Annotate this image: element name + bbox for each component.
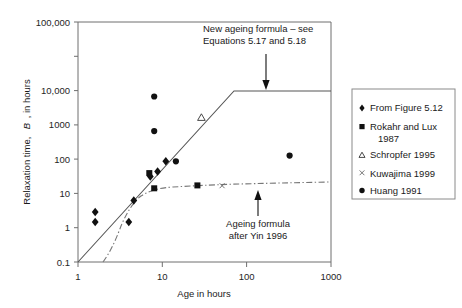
data-point-diamond bbox=[154, 167, 161, 176]
data-point-square bbox=[194, 182, 200, 188]
legend-label-line2: 1987 bbox=[378, 133, 399, 144]
legend-marker-circle bbox=[359, 188, 364, 193]
y-axis-title: Relaxation time, B , in hours bbox=[16, 79, 33, 205]
data-point-circle bbox=[151, 93, 157, 99]
chart-legend: From Figure 5.12 Rokahr and Lux 1987 Sch… bbox=[352, 89, 455, 199]
data-point-triangle bbox=[198, 114, 206, 121]
new-ageing-formula-annotation: New ageing formula – see Equations 5.17 … bbox=[203, 23, 313, 90]
data-point-diamond bbox=[162, 157, 169, 166]
y-tick-label-1000: 1000 bbox=[49, 119, 70, 130]
yin-ageing-formula-annotation: Ageing formula after Yin 1996 bbox=[226, 190, 291, 241]
y-axis-tick-labels: 100,000 10,000 1000 100 10 1 0.1 bbox=[36, 17, 70, 268]
legend-label: Rokahr and Lux bbox=[370, 121, 437, 132]
series-kuwajima-1999-markers bbox=[220, 183, 225, 188]
data-point-circle bbox=[287, 153, 293, 159]
y-axis-title-part2: , in hours bbox=[21, 79, 32, 118]
x-axis-ticks bbox=[78, 262, 331, 267]
data-point-square bbox=[151, 185, 157, 191]
y-axis-title-part1: Relaxation time, bbox=[21, 137, 32, 205]
series-rokahr-lux-1987-markers bbox=[146, 170, 200, 191]
legend-label: Kuwajima 1999 bbox=[370, 168, 435, 179]
legend-item-kuwajima-1999[interactable]: Kuwajima 1999 bbox=[360, 168, 435, 179]
y-axis-title-symbol: B bbox=[21, 122, 32, 129]
y-axis-ticks bbox=[74, 22, 78, 262]
annotation-line-2: after Yin 1996 bbox=[229, 230, 288, 241]
legend-marker-square bbox=[359, 124, 364, 129]
annotation-line-2: Equations 5.17 and 5.18 bbox=[203, 35, 306, 46]
annotation-arrow-head bbox=[262, 80, 269, 90]
legend-item-schropfer-1995[interactable]: Schropfer 1995 bbox=[359, 149, 435, 160]
annotation-arrow-head bbox=[254, 190, 261, 200]
plot-axes bbox=[78, 22, 331, 262]
x-tick-label-10: 10 bbox=[157, 271, 168, 282]
y-tick-label-1: 1 bbox=[65, 222, 70, 233]
x-axis-tick-labels: 1 10 100 1000 bbox=[75, 271, 341, 282]
data-point-square bbox=[146, 170, 152, 176]
y-tick-label-10: 10 bbox=[59, 188, 70, 199]
annotation-line-1: Ageing formula bbox=[226, 218, 291, 229]
series-schropfer-1995-markers bbox=[198, 114, 206, 121]
x-tick-label-1000: 1000 bbox=[320, 271, 341, 282]
y-tick-label-100000: 100,000 bbox=[36, 17, 70, 28]
legend-label: Schropfer 1995 bbox=[370, 149, 435, 160]
curve-new-ageing-formula bbox=[78, 91, 331, 262]
x-axis-title: Age in hours bbox=[177, 288, 231, 299]
data-point-circle bbox=[173, 158, 179, 164]
y-tick-label-10000: 10,000 bbox=[41, 85, 70, 96]
x-tick-label-1: 1 bbox=[75, 271, 80, 282]
legend-label: From Figure 5.12 bbox=[370, 102, 443, 113]
x-tick-label-100: 100 bbox=[239, 271, 255, 282]
relaxation-time-vs-age-chart: 100,000 10,000 1000 100 10 1 0.1 1 10 10… bbox=[0, 0, 462, 308]
data-point-diamond bbox=[92, 208, 99, 217]
data-point-diamond bbox=[125, 218, 132, 227]
annotation-line-1: New ageing formula – see bbox=[203, 23, 313, 34]
svg-text:Relaxation time, B: Relaxation time, B , in hours bbox=[16, 79, 33, 205]
legend-item-from-figure-512[interactable]: From Figure 5.12 bbox=[359, 102, 442, 113]
y-tick-label-0.1: 0.1 bbox=[57, 257, 70, 268]
series-from-figure-5-12-markers bbox=[92, 157, 169, 226]
curve-yin-1996-ageing-formula bbox=[103, 182, 331, 262]
data-point-diamond bbox=[92, 218, 99, 227]
y-tick-label-100: 100 bbox=[54, 154, 70, 165]
legend-label: Huang 1991 bbox=[370, 185, 422, 196]
chart-svg: 100,000 10,000 1000 100 10 1 0.1 1 10 10… bbox=[0, 0, 462, 308]
data-point-circle bbox=[151, 128, 157, 134]
data-point-cross bbox=[220, 183, 225, 188]
